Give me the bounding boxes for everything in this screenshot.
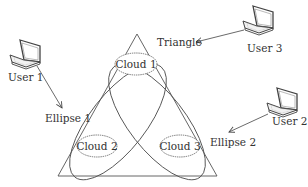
arrow-user3-to-triangle (196, 30, 244, 42)
cloud-2-label: Cloud 2 (76, 140, 117, 152)
ellipse-1-label: Ellipse 1 (45, 112, 91, 124)
cloud-1: Cloud 1 (115, 53, 157, 75)
user-2-label: User 2 (272, 115, 308, 127)
user-1-label: User 1 (8, 71, 44, 83)
user-3-label: User 3 (247, 42, 283, 54)
laptop-icon (243, 6, 273, 35)
triangle-label: Triangle (157, 36, 202, 48)
user-2: User 2 (267, 88, 308, 127)
cloud-3: Cloud 3 (159, 135, 200, 157)
cloud-2: Cloud 2 (76, 135, 117, 157)
cloud-1-label: Cloud 1 (115, 58, 156, 70)
user-1: User 1 (8, 40, 44, 83)
cloud-3-label: Cloud 3 (159, 140, 200, 152)
laptop-icon (10, 40, 40, 69)
cloud-overlap-diagram: Cloud 1 Cloud 2 Cloud 3 User 1 Ellipse 1… (0, 0, 308, 187)
arrow-user1-to-ellipse1 (37, 66, 62, 108)
user-3: User 3 (243, 6, 283, 54)
ellipse-2-label: Ellipse 2 (210, 136, 256, 148)
arrow-user2-to-ellipse2 (229, 114, 268, 132)
laptop-icon (267, 88, 297, 117)
